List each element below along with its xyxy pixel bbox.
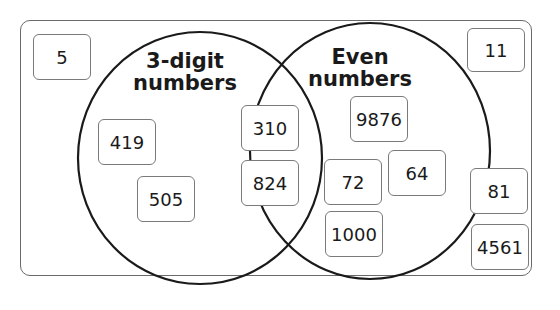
set-b-label-line2: numbers xyxy=(305,68,415,90)
number-box: 1000 xyxy=(325,211,383,257)
number-box: 505 xyxy=(137,176,195,222)
number-box: 64 xyxy=(388,150,446,196)
number-box: 11 xyxy=(467,28,525,72)
number-box: 5 xyxy=(33,34,91,80)
number-box: 824 xyxy=(241,160,299,206)
number-box: 4561 xyxy=(471,224,529,270)
number-box: 9876 xyxy=(350,96,408,142)
number-box: 310 xyxy=(241,105,299,151)
number-box: 419 xyxy=(98,119,156,165)
number-box: 81 xyxy=(470,168,528,214)
set-a-label-line1: 3-digit xyxy=(130,50,240,72)
set-b-label: Even numbers xyxy=(305,46,415,90)
number-box: 72 xyxy=(324,159,382,205)
set-a-label: 3-digit numbers xyxy=(130,50,240,94)
set-a-label-line2: numbers xyxy=(130,72,240,94)
set-b-label-line1: Even xyxy=(305,46,415,68)
